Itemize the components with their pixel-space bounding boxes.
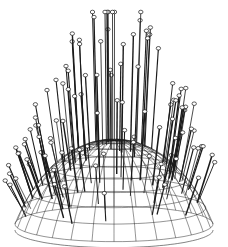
figure-caption bbox=[0, 237, 228, 247]
dome-pins-figure bbox=[0, 0, 228, 247]
